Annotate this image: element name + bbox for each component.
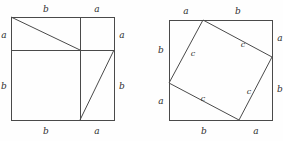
right-label-c-upper-left: c bbox=[191, 49, 196, 58]
right-label-c-lower-left: c bbox=[201, 94, 206, 103]
left-square-outline bbox=[11, 17, 114, 120]
right-square-outline bbox=[169, 20, 272, 120]
left-label-right-lower: b bbox=[119, 81, 125, 91]
left-hypotenuse-lower bbox=[80, 50, 114, 120]
left-label-left-lower: b bbox=[1, 81, 7, 91]
right-label-top-right: b bbox=[235, 6, 241, 16]
left-label-left-upper: a bbox=[1, 30, 6, 40]
right-label-c-upper-right: c bbox=[241, 40, 246, 49]
left-label-bottom-right: a bbox=[94, 126, 99, 136]
diagram-canvas: b a a b a b b a a b b a a b bbox=[0, 0, 283, 141]
right-label-right-upper: a bbox=[277, 33, 282, 43]
right-label-bottom-right: a bbox=[253, 126, 258, 136]
right-label-left-upper: b bbox=[158, 45, 164, 55]
right-label-left-lower: a bbox=[158, 96, 163, 106]
right-label-right-lower: b bbox=[277, 84, 283, 94]
right-label-c-lower-right: c bbox=[247, 87, 252, 96]
left-square-group: b a a b a b b a bbox=[1, 4, 125, 136]
right-label-top-left: a bbox=[183, 6, 188, 16]
right-inscribed-square bbox=[169, 20, 272, 120]
left-label-right-upper: a bbox=[119, 30, 124, 40]
right-square-group: a b b a a b b a c c c c bbox=[158, 6, 283, 136]
pythagorean-proof-figure: b a a b a b b a a b b a a b bbox=[0, 0, 283, 141]
left-hypotenuse-upper bbox=[11, 17, 80, 50]
left-label-bottom-left: b bbox=[43, 126, 49, 136]
right-label-bottom-left: b bbox=[201, 126, 207, 136]
left-label-top-left: b bbox=[43, 4, 49, 14]
left-label-top-right: a bbox=[94, 4, 99, 14]
